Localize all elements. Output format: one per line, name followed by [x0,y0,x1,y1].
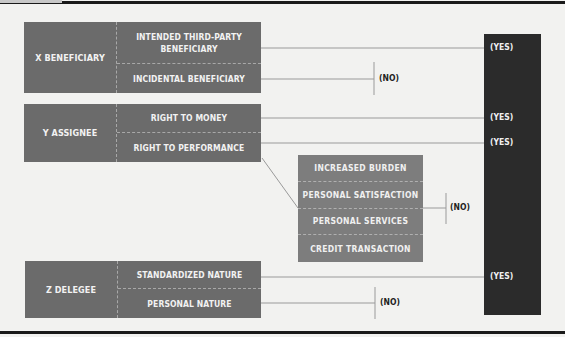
exception-credit-transaction: CREDIT TRANSACTION [298,235,423,262]
item-label-line1: INTENDED THIRD-PARTY [136,31,242,43]
item-intended-third-party-beneficiary: INTENDED THIRD-PARTY BENEFICIARY [117,22,261,64]
exception-personal-services: PERSONAL SERVICES [298,209,423,236]
group-box-z-delegee: Z DELEGEE STANDARDIZED NATURE PERSONAL N… [25,261,261,318]
outcome-no-incidental: (NO) [379,73,399,83]
bottom-border-rule [0,331,565,334]
outcome-no-personal-nature: (NO) [380,297,400,307]
outcome-yes-standardized: (YES) [490,271,513,281]
group-label-x: X BENEFICIARY [24,22,117,93]
item-right-to-performance: RIGHT TO PERFORMANCE [117,133,261,162]
exceptions-box: INCREASED BURDEN PERSONAL SATISFACTION P… [298,155,423,262]
outcome-yes-right-to-performance: (YES) [490,137,513,147]
exception-increased-burden: INCREASED BURDEN [298,155,423,182]
item-incidental-beneficiary: INCIDENTAL BENEFICIARY [117,64,261,93]
item-right-to-money: RIGHT TO MONEY [117,104,261,133]
outcome-yes-right-to-money: (YES) [490,112,513,122]
item-standardized-nature: STANDARDIZED NATURE [118,261,261,289]
exception-personal-satisfaction: PERSONAL SATISFACTION [298,182,423,209]
group-label-z: Z DELEGEE [25,261,118,318]
outcome-no-exceptions: (NO) [450,202,470,212]
item-personal-nature: PERSONAL NATURE [118,289,261,318]
group-label-y: Y ASSIGNEE [24,104,117,162]
item-label-line2: BENEFICIARY [160,43,217,55]
group-box-x-beneficiary: X BENEFICIARY INTENDED THIRD-PARTY BENEF… [24,22,261,93]
outcome-yes-intended: (YES) [490,42,513,52]
group-box-y-assignee: Y ASSIGNEE RIGHT TO MONEY RIGHT TO PERFO… [24,104,261,162]
